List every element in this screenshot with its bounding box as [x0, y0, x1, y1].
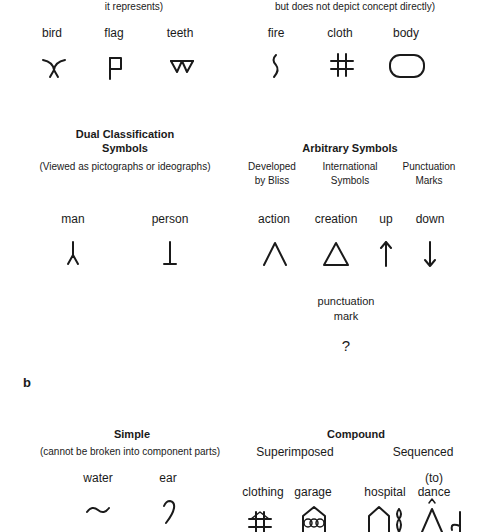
label-ear: ear [152, 471, 184, 485]
dual-subtitle: (Viewed as pictographs or ideographs) [20, 160, 230, 174]
superimposed-label: Superimposed [250, 445, 340, 459]
pictographs-caption-tail: it represents) [84, 0, 184, 14]
punctuation-label-line1: punctuation [306, 294, 386, 308]
sequenced-label: Sequenced [388, 445, 458, 459]
label-creation: creation [308, 212, 364, 226]
creation-symbol-icon [323, 242, 349, 266]
up-arrow-symbol-icon [379, 241, 393, 267]
section-b-letter: b [20, 376, 34, 390]
ear-symbol-icon [162, 500, 176, 524]
water-symbol-icon [86, 504, 110, 516]
arbitrary-column-punct-line1: Punctuation [394, 160, 464, 174]
arbitrary-column-intl-line2: Symbols [312, 174, 388, 188]
question-mark-symbol: ? [334, 338, 358, 354]
fire-symbol-icon [270, 54, 280, 78]
bird-symbol-icon [42, 58, 66, 78]
label-person: person [145, 212, 195, 226]
compound-title: Compound [318, 427, 394, 441]
label-garage: garage [290, 485, 336, 499]
punctuation-label-line2: mark [306, 309, 386, 323]
label-teeth: teeth [158, 26, 202, 40]
teeth-symbol-icon [170, 60, 194, 74]
label-to: (to) [414, 471, 454, 485]
clothing-symbol-icon [248, 510, 272, 532]
action-symbol-icon [263, 242, 287, 266]
label-dance: dance [412, 485, 456, 499]
arbitrary-column-intl-line1: International [312, 160, 388, 174]
dance-symbol-icon [412, 498, 464, 532]
label-down: down [408, 212, 452, 226]
flag-symbol-icon [108, 56, 124, 80]
label-water: water [78, 471, 118, 485]
arbitrary-column-bliss-line2: by Bliss [240, 174, 304, 188]
dual-title-line1: Dual Classification [40, 127, 210, 141]
cloth-symbol-icon [330, 53, 354, 77]
arbitrary-column-bliss-line1: Developed [240, 160, 304, 174]
label-body: body [384, 26, 428, 40]
label-fire: fire [256, 26, 296, 40]
label-action: action [252, 212, 296, 226]
label-man: man [53, 212, 93, 226]
simple-title: Simple [100, 427, 164, 441]
arbitrary-title: Arbitrary Symbols [290, 141, 410, 155]
down-arrow-symbol-icon [423, 241, 437, 267]
man-symbol-icon [66, 241, 80, 265]
label-flag: flag [94, 26, 134, 40]
body-symbol-icon [389, 54, 425, 78]
hospital-symbol-icon [368, 506, 408, 532]
label-bird: bird [32, 26, 72, 40]
label-hospital: hospital [360, 485, 410, 499]
simple-subtitle: (cannot be broken into component parts) [22, 445, 238, 459]
dual-title-line2: Symbols [40, 141, 210, 155]
arbitrary-column-punct-line2: Marks [394, 174, 464, 188]
label-up: up [372, 212, 400, 226]
garage-symbol-icon [302, 506, 326, 532]
person-symbol-icon [162, 241, 178, 265]
label-clothing: clothing [236, 485, 290, 499]
label-cloth: cloth [318, 26, 362, 40]
ideographs-caption-tail: but does not depict concept directly) [250, 0, 460, 14]
